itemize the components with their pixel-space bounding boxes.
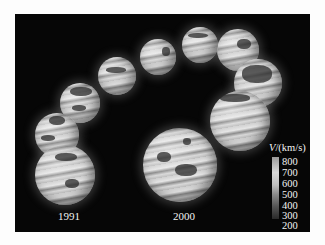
sphere-4 xyxy=(98,57,136,95)
year-label-end: 2000 xyxy=(173,210,195,222)
colorbar xyxy=(272,157,279,219)
colorbar-unit-label: V/(km/s) xyxy=(269,142,306,153)
sphere-9 xyxy=(210,91,270,151)
colorbar-tick: 500 xyxy=(282,190,298,200)
year-label-start: 1991 xyxy=(58,210,80,222)
colorbar-tick: 800 xyxy=(282,157,298,167)
sphere-1991 xyxy=(35,145,95,205)
colorbar-tick: 700 xyxy=(282,168,298,178)
sphere-5 xyxy=(140,39,176,75)
colorbar-tick: 200 xyxy=(282,221,298,231)
sphere-6 xyxy=(182,27,218,63)
figure-panel: 1991 2000 V/(km/s) 800 700 600 500 400 3… xyxy=(15,14,310,232)
sphere-2000 xyxy=(143,128,217,202)
colorbar-tick: 600 xyxy=(282,179,298,189)
